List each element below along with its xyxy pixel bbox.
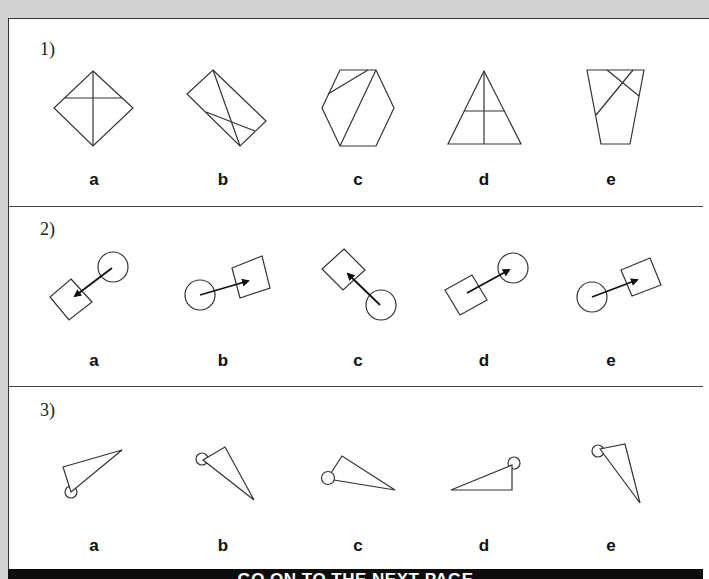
figure-3d-triangle-circle[interactable] [451, 457, 520, 490]
figure-2c-circle-arrow-square[interactable] [322, 249, 396, 320]
figure-2d-square-arrow-circle[interactable] [445, 253, 528, 315]
figure-3c-triangle-circle[interactable] [322, 456, 396, 490]
footer-bar: GO ON TO THE NEXT PAGE [8, 569, 703, 579]
figure-2e-circle-arrow-square[interactable] [577, 258, 661, 312]
figure-3a-triangle-circle[interactable] [63, 450, 122, 498]
figure-1e-trapezoid[interactable] [587, 70, 644, 144]
figure-2a-circle-arrow-square[interactable] [50, 252, 128, 320]
figure-3e-triangle-circle[interactable] [592, 444, 640, 503]
figure-2b-circle-arrow-square[interactable] [185, 256, 270, 310]
figure-1a-diamond[interactable] [54, 71, 133, 146]
go-on-next-page-text: GO ON TO THE NEXT PAGE [8, 570, 703, 579]
figure-1d-triangle[interactable] [448, 71, 521, 144]
figure-1c-hexagon[interactable] [322, 70, 394, 146]
figure-1b-rectangle[interactable] [187, 70, 266, 146]
figure-3b-triangle-circle[interactable] [196, 447, 254, 500]
